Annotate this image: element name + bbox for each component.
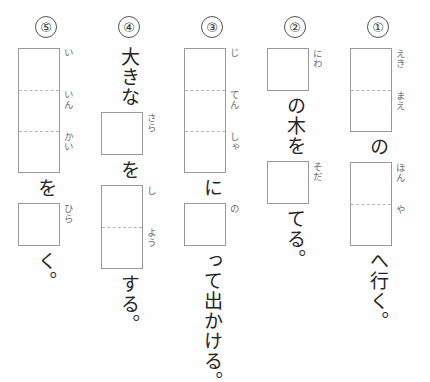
problem-body: にわの木をそだてる。 bbox=[267, 45, 323, 271]
writing-cell[interactable] bbox=[185, 131, 225, 172]
answer-box-jitensha-group: じてんしゃ bbox=[184, 48, 240, 173]
answer-box-honya-group: ほんや bbox=[350, 162, 406, 246]
answer-box-shiyou[interactable] bbox=[101, 185, 143, 269]
particle-no: の bbox=[367, 137, 389, 157]
furigana-reading: し bbox=[145, 186, 157, 227]
answer-box-honya-furigana: ほんや bbox=[394, 162, 406, 246]
furigana-reading: にわ bbox=[311, 49, 323, 90]
writing-cell[interactable] bbox=[102, 186, 142, 227]
furigana-reading: い bbox=[62, 48, 74, 89]
furigana-reading: じ bbox=[228, 48, 240, 89]
okurigana-ku: く。 bbox=[35, 251, 57, 291]
answer-box-sara[interactable] bbox=[101, 112, 143, 155]
furigana-reading: よう bbox=[145, 228, 157, 269]
writing-cell[interactable] bbox=[268, 49, 308, 90]
furigana-reading: てん bbox=[228, 90, 240, 131]
adjective-ookina: 大きな bbox=[118, 47, 140, 107]
answer-box-sara-group: さら bbox=[101, 112, 157, 155]
problem-column-1: ①えきまえのほんやへ行く。 bbox=[335, 0, 421, 367]
answer-box-niwa-group: にわ bbox=[267, 48, 323, 91]
writing-cell[interactable] bbox=[19, 90, 59, 131]
furigana-reading: まえ bbox=[394, 91, 406, 132]
answer-box-hira-group: ひら bbox=[18, 203, 74, 246]
answer-box-niwa-furigana: にわ bbox=[311, 48, 323, 91]
answer-box-jitensha[interactable] bbox=[184, 48, 226, 173]
writing-cell[interactable] bbox=[102, 113, 142, 154]
furigana-reading: さら bbox=[145, 113, 157, 154]
writing-cell[interactable] bbox=[351, 204, 391, 245]
writing-cell[interactable] bbox=[19, 49, 59, 90]
problem-number: ① bbox=[367, 16, 389, 38]
particle-wo: を bbox=[118, 160, 140, 180]
answer-box-niwa[interactable] bbox=[267, 48, 309, 91]
problem-body: えきまえのほんやへ行く。 bbox=[350, 45, 406, 333]
writing-cell[interactable] bbox=[185, 90, 225, 131]
problem-body: 大きなさらをしようする。 bbox=[101, 45, 157, 336]
problem-column-5: ⑤いいんかいをひらく。 bbox=[3, 0, 89, 367]
furigana-reading: しゃ bbox=[228, 132, 240, 173]
answer-box-iinkai-furigana: いいんかい bbox=[62, 48, 74, 173]
answer-box-no-group: の bbox=[184, 203, 240, 246]
writing-cell[interactable] bbox=[185, 204, 225, 245]
phrase-he-iku: へ行く。 bbox=[367, 251, 389, 331]
answer-box-shiyou-group: しよう bbox=[101, 185, 157, 269]
answer-box-no-furigana: の bbox=[228, 203, 240, 246]
problem-number: ④ bbox=[118, 16, 140, 38]
problem-column-2: ②にわの木をそだてる。 bbox=[252, 0, 338, 367]
writing-cell[interactable] bbox=[19, 131, 59, 172]
answer-box-hira-furigana: ひら bbox=[62, 203, 74, 246]
particle-wo: を bbox=[35, 178, 57, 198]
answer-box-shiyou-furigana: しよう bbox=[145, 185, 157, 269]
okurigana-teru: てる。 bbox=[284, 209, 306, 269]
writing-cell[interactable] bbox=[351, 90, 391, 131]
answer-box-soda-furigana: そだ bbox=[311, 161, 323, 204]
answer-box-hira[interactable] bbox=[18, 203, 60, 246]
problem-column-4: ④大きなさらをしようする。 bbox=[86, 0, 172, 367]
problem-body: じてんしゃにのって出かける。 bbox=[184, 45, 240, 382]
writing-cell[interactable] bbox=[351, 49, 391, 90]
problem-number: ② bbox=[284, 16, 306, 38]
answer-box-no[interactable] bbox=[184, 203, 226, 246]
answer-box-ekimae-furigana: えきまえ bbox=[394, 48, 406, 132]
furigana-reading: かい bbox=[62, 132, 74, 173]
writing-cell[interactable] bbox=[19, 204, 59, 245]
problem-number: ③ bbox=[201, 16, 223, 38]
phrase-tte-dekakeru: って出かける。 bbox=[201, 251, 223, 382]
answer-box-ekimae-group: えきまえ bbox=[350, 48, 406, 132]
furigana-reading: えき bbox=[394, 49, 406, 90]
problem-column-3: ③じてんしゃにのって出かける。 bbox=[169, 0, 255, 367]
problem-body: いいんかいをひらく。 bbox=[18, 45, 74, 293]
answer-box-sara-furigana: さら bbox=[145, 112, 157, 155]
furigana-reading: いん bbox=[62, 90, 74, 131]
furigana-reading: ほん bbox=[394, 163, 406, 204]
furigana-reading: や bbox=[394, 205, 406, 246]
answer-box-iinkai-group: いいんかい bbox=[18, 48, 74, 173]
writing-cell[interactable] bbox=[102, 227, 142, 268]
writing-cell[interactable] bbox=[351, 163, 391, 204]
phrase-no-ki-wo: の木を bbox=[284, 96, 306, 156]
writing-cell[interactable] bbox=[268, 162, 308, 203]
answer-box-soda[interactable] bbox=[267, 161, 309, 204]
answer-box-honya[interactable] bbox=[350, 162, 392, 246]
writing-cell[interactable] bbox=[185, 49, 225, 90]
answer-box-jitensha-furigana: じてんしゃ bbox=[228, 48, 240, 173]
furigana-reading: そだ bbox=[311, 162, 323, 203]
furigana-reading: ひら bbox=[62, 204, 74, 245]
furigana-reading: の bbox=[228, 204, 240, 245]
verb-suru: する。 bbox=[118, 274, 140, 334]
answer-box-soda-group: そだ bbox=[267, 161, 323, 204]
problem-number: ⑤ bbox=[35, 16, 57, 38]
particle-ni: に bbox=[201, 178, 223, 198]
answer-box-ekimae[interactable] bbox=[350, 48, 392, 132]
answer-box-iinkai[interactable] bbox=[18, 48, 60, 173]
